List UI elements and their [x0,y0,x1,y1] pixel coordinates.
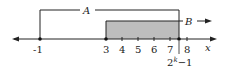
interval-a-label: A [82,5,90,16]
point-2k-1 [177,37,181,41]
axis-right-arrow-icon [210,37,217,42]
interval-b-label: B [184,16,192,27]
axis-left-arrow-icon [12,37,19,42]
tick-label-3: 3 [103,44,109,55]
point-minus-1 [38,37,42,41]
point-3 [104,37,108,41]
tick-label-6: 6 [151,44,157,55]
interval-b-arrowhead-icon [205,19,212,24]
special-point-label: 2k−1 [167,56,192,68]
tick-label-7: 7 [167,44,173,55]
tick-label-5: 5 [135,44,141,55]
axis-label: x [205,42,211,53]
interval-b-shade [106,21,179,39]
tick-label-4: 4 [119,44,125,55]
tick-label-8: 8 [184,44,190,55]
interval-a-left-bracket [40,10,80,39]
tick-label-minus-1: -1 [33,44,43,55]
number-line-diagram: B A x -1 3 4 5 6 7 8 2k−1 [0,0,225,73]
